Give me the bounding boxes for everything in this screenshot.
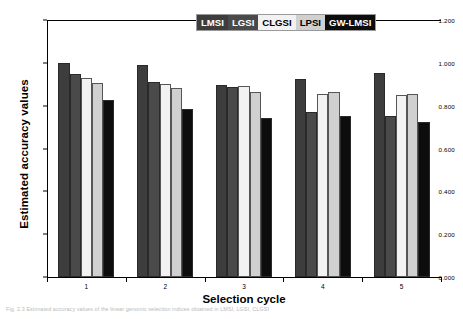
bar-clgsi-cycle-3 [238,86,249,277]
legend-item-gw-lmsi: GW-LMSI [325,15,375,30]
bar-lgsi-cycle-5 [385,116,396,277]
bar-lmsi-cycle-4 [295,79,306,277]
x-axis-label: Selection cycle [47,293,441,305]
legend-item-label: LPSI [300,17,321,28]
bar-gw-lmsi-cycle-1 [103,100,114,277]
x-tick-mark [441,277,442,282]
x-tick-mark [362,277,363,282]
legend-item-clgsi: CLGSI [258,15,295,30]
x-tick-mark [205,277,206,282]
x-tick-label: 1 [85,283,89,290]
x-tick-mark [283,277,284,282]
bar-lpsi-cycle-4 [328,92,339,277]
bar-series-layer [47,20,441,277]
bar-clgsi-cycle-1 [81,78,92,277]
x-tick-label: 4 [321,283,325,290]
legend-item-label: LMSI [201,17,224,28]
x-tick-mark [126,277,127,282]
bar-lmsi-cycle-2 [137,65,148,277]
bar-gw-lmsi-cycle-3 [261,118,272,277]
bar-gw-lmsi-cycle-4 [340,116,351,277]
bar-lgsi-cycle-4 [306,112,317,277]
bar-gw-lmsi-cycle-5 [418,122,429,277]
legend-item-label: LGSI [232,17,254,28]
legend-item-label: CLGSI [262,17,291,28]
bar-clgsi-cycle-4 [317,94,328,277]
x-tick-mark [47,277,48,282]
x-axis-line [47,277,441,278]
bar-lgsi-cycle-1 [70,74,81,277]
x-tick-label: 3 [242,283,246,290]
bar-gw-lmsi-cycle-2 [182,109,193,277]
legend-item-label: GW-LMSI [329,17,371,28]
legend-item-lpsi: LPSI [296,15,325,30]
bar-lgsi-cycle-2 [148,82,159,277]
bar-clgsi-cycle-5 [396,95,407,277]
bar-lpsi-cycle-1 [92,83,103,277]
chart-legend: LMSILGSICLGSILPSIGW-LMSI [196,14,376,31]
bar-lmsi-cycle-5 [374,73,385,277]
bar-lpsi-cycle-3 [250,92,261,277]
x-tick-label: 2 [163,283,167,290]
bar-clgsi-cycle-2 [160,84,171,277]
figure-container: 0.0000.2000.4000.6000.8001.0001.200 Esti… [0,0,463,319]
figure-caption: Fig. 2.3 Estimated accuracy values of th… [6,306,458,312]
bar-lmsi-cycle-3 [216,85,227,277]
bar-lgsi-cycle-3 [227,87,238,277]
bar-lpsi-cycle-2 [171,88,182,277]
legend-item-lgsi: LGSI [228,15,258,30]
y-axis-label: Estimated accuracy values [18,44,30,264]
legend-item-lmsi: LMSI [197,15,228,30]
bar-lpsi-cycle-5 [407,94,418,277]
x-tick-label: 5 [400,283,404,290]
bar-lmsi-cycle-1 [58,63,69,277]
